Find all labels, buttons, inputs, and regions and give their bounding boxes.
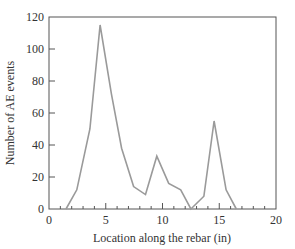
x-tick-label: 5 — [103, 213, 109, 227]
y-axis-title: Number of AE events — [3, 61, 17, 166]
x-tick-label: 0 — [46, 213, 52, 227]
x-tick-label: 15 — [213, 213, 225, 227]
y-tick-label: 40 — [32, 138, 44, 152]
y-tick-label: 100 — [26, 42, 44, 56]
x-axis-title: Location along the rebar (in) — [93, 231, 231, 245]
axis-tick-labels: 05101520020406080100120 — [26, 10, 282, 227]
x-tick-label: 20 — [270, 213, 282, 227]
y-tick-label: 0 — [38, 202, 44, 216]
plot-border — [49, 17, 276, 209]
x-tick-label: 10 — [157, 213, 169, 227]
y-tick-label: 60 — [32, 106, 44, 120]
ae-events-line — [66, 25, 236, 209]
axis-ticks — [49, 49, 265, 209]
y-tick-label: 120 — [26, 10, 44, 24]
y-tick-label: 20 — [32, 170, 44, 184]
line-chart: 05101520020406080100120 Location along t… — [0, 0, 295, 249]
y-tick-label: 80 — [32, 74, 44, 88]
plot-frame — [49, 17, 276, 209]
